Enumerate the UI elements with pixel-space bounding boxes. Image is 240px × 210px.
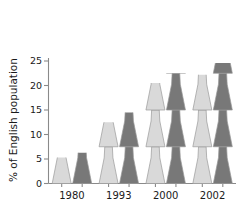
y-tick-label: 15 [30, 104, 42, 115]
y-tick-label: 10 [30, 129, 42, 140]
x-axis-label-1993: 1993 [106, 190, 131, 201]
y-tick-label: 20 [30, 80, 42, 91]
x-axis-label-2002: 2002 [200, 190, 225, 201]
chart-container: % of English population 0510152025 19801… [0, 0, 240, 210]
y-tick-label: 0 [36, 178, 42, 189]
y-tick-label: 25 [30, 55, 42, 66]
x-axis-label-2000: 2000 [153, 190, 178, 201]
pictogram-bar-chart: % of English population 0510152025 19801… [0, 0, 240, 210]
y-tick-label: 5 [36, 153, 42, 164]
y-axis-title: % of English population [7, 58, 19, 182]
x-axis-label-1980: 1980 [59, 190, 84, 201]
